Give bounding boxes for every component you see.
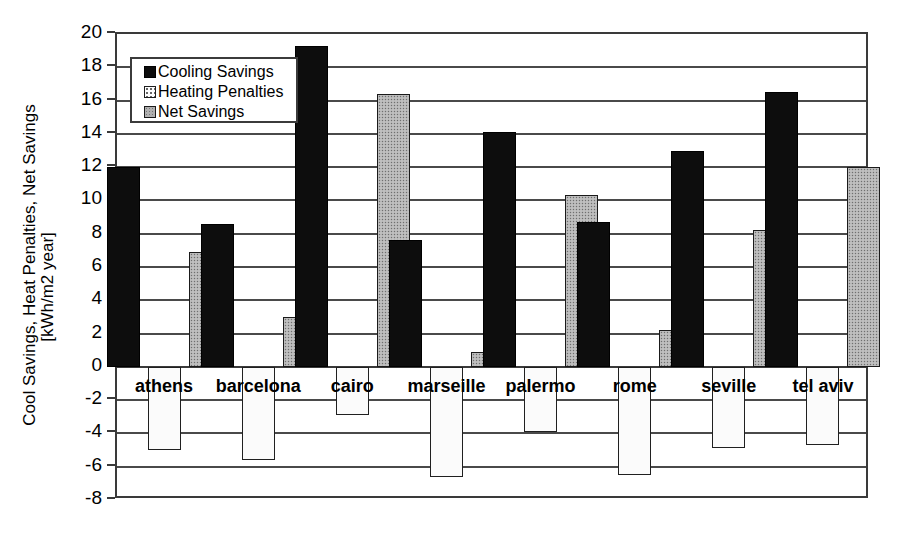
bar-cooling-savings bbox=[671, 151, 704, 367]
x-axis-category-label: marseille bbox=[399, 376, 493, 396]
gridline bbox=[117, 466, 866, 468]
bar-cooling-savings bbox=[201, 224, 234, 367]
y-axis-tick-mark bbox=[107, 464, 115, 466]
x-axis-category-label: cairo bbox=[305, 376, 399, 396]
y-axis-tick-label: 14 bbox=[58, 122, 102, 141]
y-axis-tick-label: 4 bbox=[58, 288, 102, 307]
legend-label-cooling-savings: Cooling Savings bbox=[158, 63, 274, 81]
bar-cooling-savings bbox=[389, 240, 422, 366]
gridline bbox=[117, 399, 866, 401]
bar-cooling-savings bbox=[483, 132, 516, 367]
y-axis-tick-mark bbox=[107, 98, 115, 100]
y-axis-title: Cool Savings, Heat Penalties, Net Saving… bbox=[0, 0, 58, 544]
y-axis-tick-label: -4 bbox=[58, 421, 102, 440]
plot-area: athensbarcelonacairomarseillepalermorome… bbox=[115, 32, 868, 498]
y-axis-tick-label: 0 bbox=[58, 355, 102, 374]
bar-cooling-savings bbox=[295, 46, 328, 367]
y-axis-tick-mark bbox=[107, 131, 115, 133]
y-axis-tick-mark bbox=[107, 397, 115, 399]
y-axis-tick-mark bbox=[107, 31, 115, 33]
x-axis-category-label: rome bbox=[588, 376, 682, 396]
bar-cooling-savings bbox=[577, 222, 610, 367]
legend-item-cooling-savings: Cooling Savings bbox=[144, 62, 296, 82]
legend-swatch-cooling-icon bbox=[144, 66, 156, 78]
x-axis-category-label: palermo bbox=[494, 376, 588, 396]
y-axis-tick-mark bbox=[107, 430, 115, 432]
legend-swatch-heating-icon bbox=[144, 86, 156, 98]
y-axis-tick-label: -8 bbox=[58, 488, 102, 507]
y-axis-tick-label: -2 bbox=[58, 388, 102, 407]
x-axis-category-label: athens bbox=[117, 376, 211, 396]
y-axis-tick-mark bbox=[107, 64, 115, 66]
gridline bbox=[117, 432, 866, 434]
bar-cooling-savings bbox=[765, 92, 798, 367]
x-axis-category-label: tel aviv bbox=[776, 376, 870, 396]
y-axis-tick-label: 12 bbox=[58, 155, 102, 174]
y-axis-tick-mark bbox=[107, 164, 115, 166]
legend-label-heating-penalties: Heating Penalties bbox=[158, 83, 283, 101]
bar-cooling-savings bbox=[107, 167, 140, 367]
y-axis-tick-label: -6 bbox=[58, 455, 102, 474]
x-axis-category-label: barcelona bbox=[211, 376, 305, 396]
legend-item-net-savings: Net Savings bbox=[144, 102, 296, 122]
bar-net-savings bbox=[847, 167, 880, 367]
legend: Cooling Savings Heating Penalties Net Sa… bbox=[130, 57, 298, 123]
legend-item-heating-penalties: Heating Penalties bbox=[144, 82, 296, 102]
y-axis-tick-label: 6 bbox=[58, 255, 102, 274]
y-axis-tick-label: 16 bbox=[58, 89, 102, 108]
y-axis-tick-label: 18 bbox=[58, 55, 102, 74]
y-axis-tick-label: 2 bbox=[58, 322, 102, 341]
legend-label-net-savings: Net Savings bbox=[158, 103, 244, 121]
y-axis-tick-label: 20 bbox=[58, 22, 102, 41]
legend-swatch-net-icon bbox=[144, 106, 156, 118]
bar-chart-figure: Cool Savings, Heat Penalties, Net Saving… bbox=[0, 0, 900, 544]
y-axis-tick-mark bbox=[107, 497, 115, 499]
x-axis-category-label: seville bbox=[682, 376, 776, 396]
y-axis-tick-label: 10 bbox=[58, 188, 102, 207]
y-axis-tick-label: 8 bbox=[58, 222, 102, 241]
y-axis-title-line-2: [kWh/m2 year] bbox=[37, 52, 59, 522]
